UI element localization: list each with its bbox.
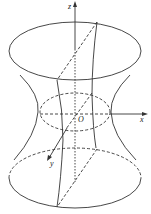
generator-dashed-top xyxy=(57,22,97,80)
hyperboloid-diagram: z x y O xyxy=(0,0,151,214)
y-axis-label: y xyxy=(49,159,54,168)
generator-solid-right xyxy=(92,22,97,148)
origin-label: O xyxy=(78,115,84,124)
left-profile xyxy=(14,75,38,160)
z-axis-arrow-icon xyxy=(73,1,77,7)
x-axis-label: x xyxy=(139,115,144,124)
z-axis-label: z xyxy=(67,2,72,11)
generator-dashed-bottom xyxy=(57,149,97,207)
bottom-ellipse-front xyxy=(9,178,141,208)
right-profile xyxy=(111,75,136,160)
y-axis xyxy=(49,128,67,158)
